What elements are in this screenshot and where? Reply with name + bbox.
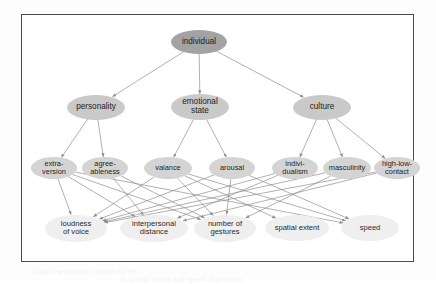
node-label: loudness of voice [61, 220, 91, 236]
node-agreeableness[interactable]: agree- ableness [82, 157, 128, 179]
node-loudness_of_voice[interactable]: loudness of voice [45, 215, 107, 242]
node-extraversion[interactable]: extra- version [31, 157, 77, 179]
node-label: high-low- contact [382, 160, 412, 175]
node-label: spatial extent [275, 224, 320, 232]
node-label: agree- ableness [90, 160, 120, 175]
node-label: culture [310, 103, 335, 112]
node-valance[interactable]: valance [144, 157, 192, 179]
node-label: extra- version [42, 160, 66, 175]
node-individualism[interactable]: indivi- dualism [272, 157, 318, 179]
node-label: number of gestures [208, 220, 242, 236]
node-arousal[interactable]: arousal [209, 157, 255, 179]
node-label: indivi- dualism [282, 160, 307, 175]
node-high_low_contact[interactable]: high-low- contact [374, 157, 420, 179]
node-personality[interactable]: personality [67, 95, 125, 120]
node-label: arousal [220, 164, 244, 172]
node-spatial_extent[interactable]: spatial extent [265, 215, 329, 241]
node-label: personality [76, 103, 116, 112]
node-emotional_state[interactable]: emotional state [171, 94, 229, 120]
node-label: speed [360, 224, 381, 232]
node-individual[interactable]: individual [171, 30, 227, 54]
node-masculinity[interactable]: masculinity [323, 157, 371, 179]
node-label: interpersonal distance [132, 220, 176, 236]
ghost-text-line: in spatial extent and speed of gestures [120, 276, 243, 284]
node-speed[interactable]: speed [341, 215, 399, 241]
ghost-text-line: high-low-contact cultures differ [34, 268, 136, 276]
node-label: valance [155, 164, 180, 172]
node-culture[interactable]: culture [293, 95, 351, 120]
node-number_of_gestures[interactable]: number of gestures [194, 215, 256, 242]
node-interpersonal_distance[interactable]: interpersonal distance [120, 215, 188, 242]
node-label: emotional state [182, 98, 218, 115]
node-label: individual [182, 38, 216, 47]
node-label: masculinity [329, 164, 366, 172]
